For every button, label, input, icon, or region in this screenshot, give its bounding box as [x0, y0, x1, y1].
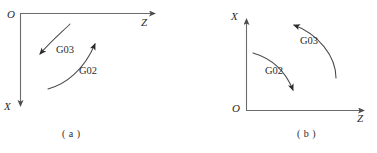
- x-axis-label-a: X: [4, 101, 11, 112]
- panel-b-graphics: [190, 0, 377, 153]
- x-axis-label-b: X: [231, 11, 238, 22]
- origin-label-a: O: [7, 9, 15, 20]
- panel-caption-b: ( b ): [297, 128, 316, 140]
- arc-label-g03-a: G03: [56, 44, 74, 55]
- origin-label-b: O: [232, 103, 240, 114]
- panel-caption-a: ( a ): [62, 128, 81, 140]
- figure-root: O Z X G03 G02 ( a ): [0, 0, 377, 153]
- arc-label-g02-b: G02: [265, 65, 283, 76]
- panel-a-graphics: [0, 0, 190, 153]
- arc-label-g02-a: G02: [79, 65, 97, 76]
- z-axis-label-b: Z: [357, 113, 363, 124]
- diagram-panel-a: O Z X G03 G02 ( a ): [0, 0, 190, 153]
- arc-g03-b: [294, 25, 336, 78]
- diagram-panel-b: X O Z G03 G02 ( b ): [190, 0, 377, 153]
- arc-label-g03-b: G03: [300, 35, 318, 46]
- z-axis-label-a: Z: [141, 17, 147, 28]
